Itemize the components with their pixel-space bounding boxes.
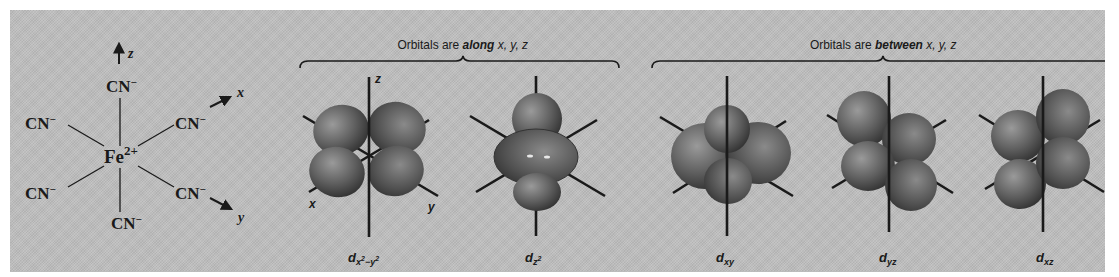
ligand-lower-left: CN− [25, 183, 56, 203]
axis-label-z: z [127, 46, 134, 61]
orbital-dxz: dxz [979, 76, 1104, 267]
orbital-label: dxz [1036, 250, 1054, 267]
octahedral-complex: z x y CN− CN− CN− CN− CN− CN− Fe2+ [25, 44, 245, 233]
ligand-bottom: CN− [111, 213, 142, 233]
x-axis-arrow [210, 97, 230, 107]
metal-center: Fe2+ [104, 143, 138, 167]
orbital-diagram: z x y CN− CN− CN− CN− CN− CN− Fe2+ Orbit… [0, 0, 1119, 277]
orbital-dx2-y2: z x y dx2−y2 [303, 72, 438, 267]
ligand-top: CN− [106, 76, 137, 96]
orbital-label: dyz [879, 250, 897, 267]
brace-between [652, 56, 1105, 68]
orbital-axis-z: z [374, 72, 381, 86]
group-along-title: Orbitals are along x, y, z [397, 38, 528, 53]
group-along: Orbitals are along x, y, z [300, 38, 619, 68]
ligand-upper-left: CN− [25, 113, 56, 133]
orbital-label: dz2 [525, 250, 541, 267]
ligand-lower-right: CN− [175, 183, 206, 203]
orbital-label: dx2−y2 [348, 250, 379, 267]
y-axis-arrow [210, 198, 231, 209]
orbital-dxy: dxy [660, 76, 793, 267]
orbital-dz2: dz2 [470, 76, 605, 267]
orbital-label: dxy [716, 250, 735, 267]
brace-along [300, 56, 619, 68]
group-between-title: Orbitals are between x, y, z [810, 38, 957, 53]
orbital-dyz: dyz [827, 76, 953, 267]
group-between: Orbitals are between x, y, z [652, 38, 1105, 68]
orbital-axis-y: y [427, 200, 436, 214]
ligand-upper-right: CN− [175, 113, 206, 133]
axis-label-x: x [236, 85, 244, 100]
orbital-axis-x: x [308, 197, 317, 211]
axis-label-y: y [236, 210, 245, 225]
